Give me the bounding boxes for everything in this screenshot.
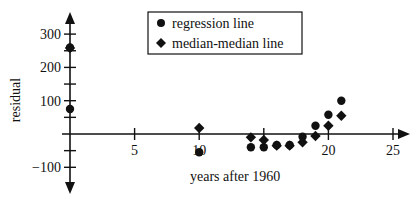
regression-residual-point	[195, 148, 203, 156]
y-tick-label: 100	[40, 94, 61, 109]
arrow-up-icon	[65, 12, 75, 24]
regression-residual-point	[311, 121, 319, 129]
median-median-residual-point	[284, 140, 294, 150]
median-median-residual-point	[194, 123, 204, 133]
arrow-down-icon	[65, 182, 75, 194]
data-points	[65, 43, 347, 157]
y-tick-label: −100	[32, 160, 61, 175]
regression-residual-point	[337, 97, 345, 105]
legend-label-regression: regression line	[172, 16, 254, 31]
median-median-residual-point	[259, 135, 269, 145]
arrow-right-icon	[398, 129, 410, 139]
x-tick-label: 25	[386, 143, 400, 158]
x-axis-label: years after 1960	[190, 169, 280, 184]
y-tick-label: 300	[40, 27, 61, 42]
median-median-residual-point	[323, 120, 333, 130]
y-tick-label: 200	[40, 60, 61, 75]
median-median-residual-point	[272, 140, 282, 150]
residual-scatter-plot: 300200100−1005102025 residual years afte…	[0, 0, 420, 198]
x-tick-label: 20	[321, 143, 335, 158]
median-median-residual-point	[310, 131, 320, 141]
legend-label-median-median: median-median line	[172, 36, 284, 51]
median-median-residual-point	[65, 43, 75, 53]
regression-residual-point	[66, 105, 74, 113]
legend: regression line median-median line	[148, 12, 302, 54]
y-axis-label: residual	[8, 78, 23, 122]
regression-residual-point	[247, 143, 255, 151]
x-tick-label: 5	[131, 143, 138, 158]
regression-residual-point	[324, 110, 332, 118]
circle-marker-icon	[157, 19, 165, 27]
median-median-residual-point	[336, 110, 346, 120]
